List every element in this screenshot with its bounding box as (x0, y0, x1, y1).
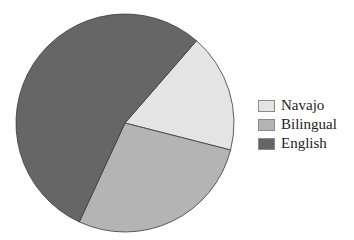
legend-item-english: English (258, 134, 337, 153)
legend-label-bilingual: Bilingual (281, 115, 337, 134)
legend-item-bilingual: Bilingual (258, 115, 337, 134)
legend-item-navajo: Navajo (258, 96, 337, 115)
legend-swatch-bilingual (258, 119, 275, 131)
legend-label-navajo: Navajo (281, 96, 324, 115)
legend-swatch-english (258, 138, 275, 150)
legend-label-english: English (281, 134, 327, 153)
legend: Navajo Bilingual English (258, 96, 337, 153)
legend-swatch-navajo (258, 100, 275, 112)
